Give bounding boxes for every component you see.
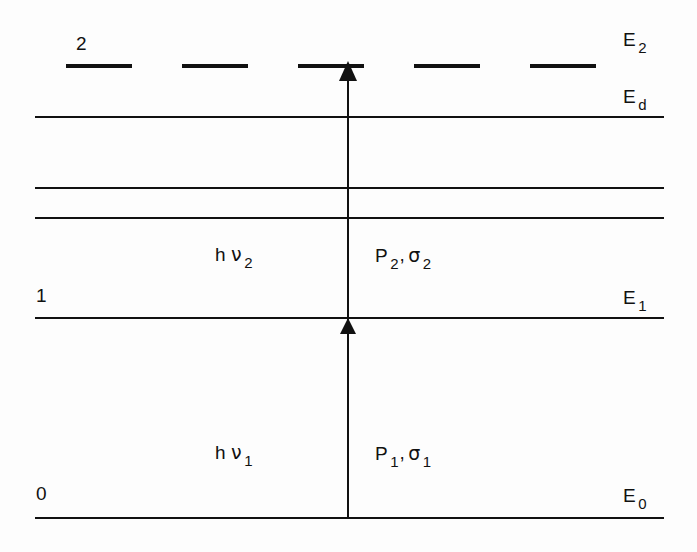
transition-arrow-shaft-step-2 xyxy=(347,80,349,320)
photon-planck-symbol-step-2: h xyxy=(215,244,226,265)
transition-arrow-head-step-2 xyxy=(339,61,357,81)
photon-label-step-1: hν1 xyxy=(215,443,253,468)
level-energy-label-Ed-text: E xyxy=(623,86,636,107)
level-line-intermediate-upper xyxy=(35,187,664,189)
power-sub-step-2: 2 xyxy=(390,255,398,272)
level-line-Ed xyxy=(35,116,664,118)
level-energy-label-E0: E0 xyxy=(623,486,647,511)
photon-nu-symbol-step-1: ν xyxy=(231,441,242,463)
power-cross-section-label-step-2: P2,σ2 xyxy=(375,245,431,271)
level-energy-label-E1-text: E xyxy=(623,287,636,308)
power-symbol-step-2: P xyxy=(375,245,388,266)
level-index-label-2: 2 xyxy=(76,34,87,53)
transition-arrow-head-step-1 xyxy=(340,318,356,334)
level-energy-label-E2-sub: 2 xyxy=(638,39,646,56)
power-cross-section-label-step-1: P1,σ1 xyxy=(375,443,431,469)
level-energy-label-E2: E2 xyxy=(623,30,647,55)
power-symbol-step-1: P xyxy=(375,443,388,464)
level-energy-label-E1-sub: 1 xyxy=(638,297,646,314)
level-index-label-0: 0 xyxy=(36,484,47,503)
level-energy-label-E0-sub: 0 xyxy=(638,495,646,512)
label-separator-step-2: , xyxy=(400,245,406,264)
photon-nu-sub-step-1: 1 xyxy=(244,452,252,469)
level-energy-label-Ed: Ed xyxy=(623,87,647,112)
level-energy-label-E1: E1 xyxy=(623,288,647,313)
photon-nu-symbol-step-2: ν xyxy=(231,243,242,265)
power-sub-step-1: 1 xyxy=(390,453,398,470)
cross-section-sub-step-1: 1 xyxy=(423,453,431,470)
level-line-E0 xyxy=(35,517,664,519)
level-energy-label-E0-text: E xyxy=(623,485,636,506)
photon-planck-symbol-step-1: h xyxy=(215,442,226,463)
transition-arrow-shaft-step-1 xyxy=(347,318,349,518)
cross-section-symbol-step-2: σ xyxy=(408,244,421,266)
label-separator-step-1: , xyxy=(400,443,406,462)
photon-nu-sub-step-2: 2 xyxy=(244,254,252,271)
cross-section-sub-step-2: 2 xyxy=(423,255,431,272)
level-line-intermediate-lower xyxy=(35,217,664,219)
photon-label-step-2: hν2 xyxy=(215,245,253,270)
level-index-label-1: 1 xyxy=(36,286,47,305)
level-energy-label-E2-text: E xyxy=(623,29,636,50)
cross-section-symbol-step-1: σ xyxy=(408,442,421,464)
level-energy-label-Ed-sub: d xyxy=(638,96,646,113)
energy-level-diagram: 2 E2 Ed 1 E1 0 E0 hν2 P2,σ2 hν1 P1,σ1 xyxy=(0,0,697,552)
